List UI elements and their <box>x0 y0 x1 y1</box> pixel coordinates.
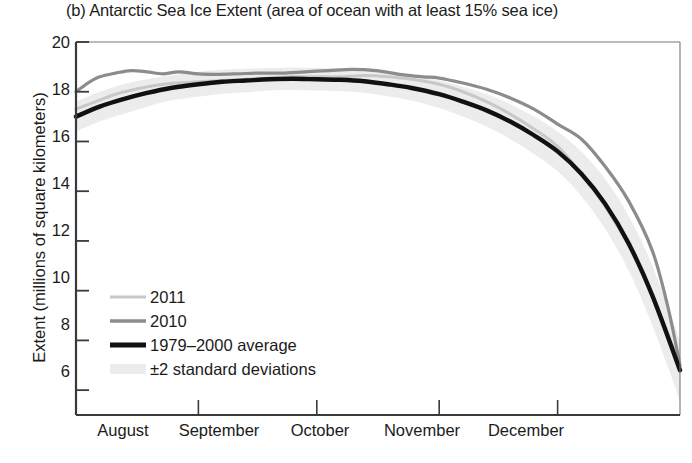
legend-swatch-band <box>110 364 146 374</box>
plot-area <box>0 0 692 463</box>
legend-label-average: 1979–2000 average <box>150 336 297 355</box>
legend-label-2010: 2010 <box>150 312 187 331</box>
legend-label-stddev: ±2 standard deviations <box>150 360 316 379</box>
figure-root: (b) Antarctic Sea Ice Extent (area of oc… <box>0 0 692 463</box>
legend-label-2011: 2011 <box>150 288 185 307</box>
legend-swatches <box>110 297 146 374</box>
